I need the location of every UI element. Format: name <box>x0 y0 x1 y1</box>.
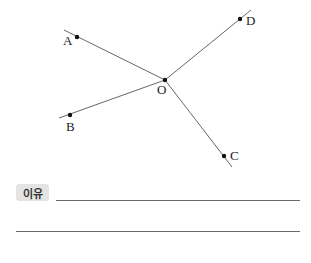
point-c <box>222 154 226 158</box>
ray-od <box>165 10 251 80</box>
answer-line-2[interactable] <box>16 231 300 232</box>
reason-badge: 이유 <box>16 184 49 201</box>
point-a <box>75 35 79 39</box>
point-d <box>238 17 242 21</box>
ray-oc <box>165 80 232 167</box>
label-o: O <box>157 82 166 97</box>
point-labels: ABCDO <box>63 13 255 163</box>
ray-oa <box>64 30 165 80</box>
point-b <box>68 113 72 117</box>
label-d: D <box>246 13 255 28</box>
rays <box>59 10 251 167</box>
answer-line-1[interactable] <box>56 200 300 201</box>
label-b: B <box>66 119 75 134</box>
ray-ob <box>59 80 165 118</box>
geometry-figure: ABCDO <box>0 0 311 180</box>
label-c: C <box>230 148 239 163</box>
label-a: A <box>63 33 73 48</box>
